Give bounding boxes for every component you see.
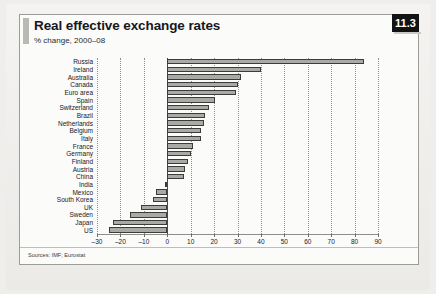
plot-area [97,58,378,234]
bar [153,197,167,202]
tick-mark [308,234,309,237]
bar [167,128,201,133]
badge-shadow [394,32,421,34]
bar [167,151,190,156]
tick-mark [120,234,121,237]
bar [167,59,364,64]
bar [167,82,237,87]
category-label: France [73,143,93,150]
bar [109,227,168,232]
category-label: Mexico [72,189,93,196]
tick-mark [214,234,215,237]
bar [167,159,188,164]
category-label: Germany [66,150,93,157]
tick-label: 30 [234,238,241,245]
gridline-70 [331,58,332,234]
gridline-80 [355,58,356,234]
tick-mark [238,234,239,237]
tick-mark [378,234,379,237]
tick-label: 90 [374,238,381,245]
bar [167,166,185,171]
bar [141,205,167,210]
category-label: Brazil [77,112,93,119]
bar [167,120,203,125]
category-label: Switzerland [59,104,93,111]
category-label: Sweden [70,211,94,218]
bar [167,136,201,141]
category-label: Austria [73,166,93,173]
gridline-60 [308,58,309,234]
tick-label: 0 [165,238,169,245]
tick-label: –30 [92,238,103,245]
bar [167,174,183,179]
gridline-30 [238,58,239,234]
gridline--20 [120,58,121,234]
tick-label: –10 [138,238,149,245]
category-label: Russia [73,58,93,65]
bar [165,182,167,187]
source-divider [20,247,418,248]
tick-label: 70 [328,238,335,245]
bar [167,105,209,110]
tick-label: 40 [257,238,264,245]
gridline-50 [284,58,285,234]
tick-label: 50 [281,238,288,245]
tick-mark [144,234,145,237]
category-label: China [76,173,93,180]
tick-mark [261,234,262,237]
x-axis-ticks: –30–20–100102030405060708090 [97,234,378,248]
gridline-90 [378,58,379,234]
tick-mark [191,234,192,237]
bar [167,67,261,72]
tick-mark [331,234,332,237]
category-label: Finland [72,158,93,165]
tick-mark [97,234,98,237]
category-label: Ireland [73,66,93,73]
tick-mark [284,234,285,237]
category-axis-labels: RussiaIrelandAustraliaCanadaEuro areaSpa… [20,58,93,234]
bar [130,212,167,217]
chart-subtitle: % change, 2000–08 [34,36,105,45]
title-accent-bar [23,18,29,44]
figure-number-badge: 11.3 [392,14,419,32]
category-label: Australia [68,74,93,81]
category-label: Euro area [64,89,93,96]
category-label: US [84,227,93,234]
gridline--30 [97,58,98,234]
category-label: India [79,181,93,188]
bar [156,189,168,194]
bar [167,113,204,118]
tick-label: 60 [304,238,311,245]
bar [167,143,193,148]
tick-mark [355,234,356,237]
source-note: Sources: IMF; Eurostat [28,252,85,258]
gridline-40 [261,58,262,234]
category-label: Spain [76,97,93,104]
tick-label: –20 [115,238,126,245]
screenshot-page: Real effective exchange rates % change, … [0,0,436,294]
bar [167,97,215,102]
tick-label: 80 [351,238,358,245]
bar [167,74,241,79]
tick-mark [167,234,168,237]
category-label: South Korea [57,196,93,203]
category-label: Belgium [70,127,93,134]
category-label: Netherlands [58,120,93,127]
category-label: Japan [75,219,93,226]
bar [113,220,167,225]
tick-label: 20 [210,238,217,245]
bar [167,90,236,95]
category-label: Canada [70,81,93,88]
tick-label: 10 [187,238,194,245]
category-label: Italy [81,135,93,142]
category-label: UK [84,204,93,211]
page-title: Real effective exchange rates [34,18,220,33]
